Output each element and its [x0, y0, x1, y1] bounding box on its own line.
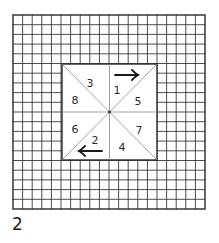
- region-label: 2: [92, 134, 99, 147]
- figure-caption: 2: [12, 216, 23, 233]
- grid-diagram: 38156274: [0, 0, 219, 243]
- region-label: 6: [72, 123, 79, 136]
- region-label: 4: [119, 141, 126, 154]
- region-label: 7: [136, 124, 143, 137]
- region-label: 3: [87, 77, 94, 90]
- center-point: [108, 111, 111, 114]
- region-label: 1: [114, 84, 121, 97]
- region-label: 5: [135, 95, 142, 108]
- region-label: 8: [72, 94, 79, 107]
